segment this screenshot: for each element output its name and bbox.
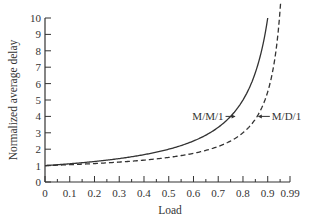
- y-tick-label: 5: [36, 94, 42, 106]
- x-tick-label: 0.8: [236, 187, 250, 199]
- y-tick-label: 6: [36, 78, 42, 90]
- x-tick-label: 0.6: [187, 187, 201, 199]
- x-axis-title: Load: [158, 204, 182, 216]
- x-tick-label: 0.5: [162, 187, 176, 199]
- y-tick-label: 4: [36, 110, 42, 122]
- y-axis-title: Normalized average delay: [7, 39, 20, 160]
- y-tick-label: 1: [36, 160, 42, 172]
- y-tick-label: 8: [36, 45, 42, 57]
- series-md1-line: [45, 3, 281, 166]
- tick-marks: 01234567891000.10.20.30.40.50.60.70.80.9…: [30, 12, 300, 199]
- y-tick-label: 10: [30, 12, 42, 24]
- y-tick-label: 7: [36, 61, 42, 73]
- x-tick-label: 0.4: [137, 187, 151, 199]
- arrow-icon: [232, 114, 236, 118]
- chart: 01234567891000.10.20.30.40.50.60.70.80.9…: [0, 0, 318, 222]
- x-tick-label: 0: [42, 187, 48, 199]
- x-tick-label: 0.9: [261, 187, 275, 199]
- x-tick-label: 0.99: [280, 187, 300, 199]
- x-tick-label: 0.3: [112, 187, 126, 199]
- y-tick-label: 9: [36, 28, 42, 40]
- series-mm1-line: [45, 18, 268, 166]
- annotation-md1-label: M/D/1: [272, 110, 301, 122]
- series-curves: [45, 3, 281, 166]
- y-tick-label: 0: [36, 176, 42, 188]
- y-tick-label: 2: [36, 143, 42, 155]
- annotation-mm1-label: M/M/1: [192, 110, 223, 122]
- x-tick-label: 0.7: [211, 187, 225, 199]
- annotations: M/M/1M/D/1: [192, 110, 301, 122]
- y-tick-label: 3: [36, 127, 42, 139]
- x-tick-label: 0.2: [88, 187, 102, 199]
- x-tick-label: 0.1: [63, 187, 77, 199]
